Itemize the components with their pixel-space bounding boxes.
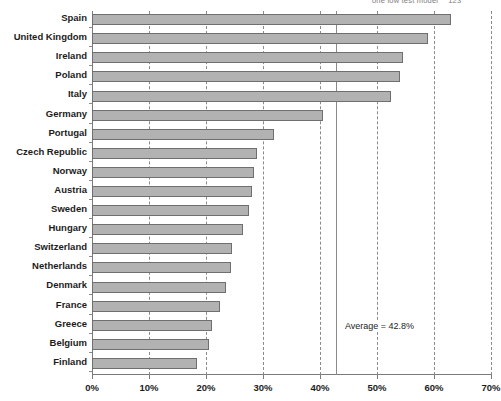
category-label-united-kingdom: United Kingdom <box>14 31 87 42</box>
bar-portugal <box>92 129 274 140</box>
x-tick-label-50: 50% <box>367 382 386 393</box>
bar-ireland <box>92 52 403 63</box>
x-tick-label-40: 40% <box>310 382 329 393</box>
bar-row: Belgium <box>92 336 491 355</box>
bar-row: France <box>92 298 491 317</box>
bar-united-kingdom <box>92 33 428 44</box>
bar-row: Poland <box>92 68 491 87</box>
bar-austria <box>92 186 252 197</box>
category-label-denmark: Denmark <box>46 279 87 290</box>
y-tick <box>89 218 92 219</box>
category-label-sweden: Sweden <box>51 203 87 214</box>
y-tick <box>89 103 92 104</box>
category-label-netherlands: Netherlands <box>32 260 87 271</box>
x-tick-label-0: 0% <box>85 382 99 393</box>
y-tick <box>89 180 92 181</box>
bar-spain <box>92 14 451 25</box>
bar-sweden <box>92 205 249 216</box>
bar-switzerland <box>92 243 232 254</box>
y-tick <box>89 333 92 334</box>
y-tick <box>89 314 92 315</box>
bar-row: Switzerland <box>92 240 491 259</box>
bar-row: Ireland <box>92 49 491 68</box>
average-annotation: Average = 42.8% <box>343 320 416 332</box>
category-label-belgium: Belgium <box>50 337 87 348</box>
x-tick-20 <box>206 375 207 379</box>
y-tick <box>89 237 92 238</box>
bar-belgium <box>92 339 209 350</box>
bar-norway <box>92 167 254 178</box>
x-tick-60 <box>434 375 435 379</box>
category-label-norway: Norway <box>53 165 87 176</box>
category-label-switzerland: Switzerland <box>34 241 87 252</box>
x-tick-0 <box>92 375 93 379</box>
x-tick-70 <box>491 375 492 379</box>
top-partial-header-number: 123 <box>448 0 461 5</box>
y-tick <box>89 256 92 257</box>
category-label-italy: Italy <box>68 88 87 99</box>
bar-denmark <box>92 282 226 293</box>
x-tick-40 <box>320 375 321 379</box>
bar-row: Denmark <box>92 278 491 297</box>
category-label-austria: Austria <box>54 184 87 195</box>
bar-france <box>92 301 220 312</box>
top-partial-header-label: one low test model <box>372 0 438 5</box>
y-tick <box>89 275 92 276</box>
top-partial-header-text: one low test model123 <box>372 0 495 5</box>
gridline-70 <box>491 11 492 375</box>
bar-row: United Kingdom <box>92 30 491 49</box>
bar-row: Greece <box>92 317 491 336</box>
y-tick <box>89 161 92 162</box>
bar-italy <box>92 91 391 102</box>
bar-row: Portugal <box>92 126 491 145</box>
bar-greece <box>92 320 212 331</box>
bar-row: Hungary <box>92 221 491 240</box>
bar-germany <box>92 110 323 121</box>
y-tick <box>89 123 92 124</box>
bar-row: Sweden <box>92 202 491 221</box>
category-label-ireland: Ireland <box>56 50 87 61</box>
bar-rows: SpainUnited KingdomIrelandPolandItalyGer… <box>92 11 491 375</box>
y-tick <box>89 84 92 85</box>
bar-czech-republic <box>92 148 257 159</box>
bar-poland <box>92 71 400 82</box>
x-tick-label-10: 10% <box>139 382 158 393</box>
category-label-portugal: Portugal <box>48 127 87 138</box>
category-label-finland: Finland <box>53 356 87 367</box>
bar-row: Germany <box>92 107 491 126</box>
bar-netherlands <box>92 262 231 273</box>
bar-row: Spain <box>92 11 491 30</box>
category-label-france: France <box>56 299 87 310</box>
x-tick-30 <box>263 375 264 379</box>
y-tick <box>89 27 92 28</box>
plot-area: SpainUnited KingdomIrelandPolandItalyGer… <box>92 11 491 375</box>
y-tick <box>89 371 92 372</box>
y-tick <box>89 65 92 66</box>
bar-hungary <box>92 224 243 235</box>
x-tick-label-60: 60% <box>424 382 443 393</box>
bar-row: Italy <box>92 87 491 106</box>
category-label-greece: Greece <box>55 318 87 329</box>
y-tick <box>89 352 92 353</box>
category-label-czech-republic: Czech Republic <box>16 146 87 157</box>
y-tick <box>89 294 92 295</box>
x-tick-label-70: 70% <box>481 382 500 393</box>
y-tick <box>89 199 92 200</box>
bar-finland <box>92 358 197 369</box>
x-tick-label-20: 20% <box>196 382 215 393</box>
bar-row: Finland <box>92 355 491 374</box>
y-tick <box>89 46 92 47</box>
bar-row: Netherlands <box>92 259 491 278</box>
category-label-spain: Spain <box>61 12 87 23</box>
category-label-poland: Poland <box>55 69 87 80</box>
x-tick-50 <box>377 375 378 379</box>
x-tick-label-30: 30% <box>253 382 272 393</box>
category-label-hungary: Hungary <box>48 222 87 233</box>
category-label-germany: Germany <box>46 108 87 119</box>
bar-row: Czech Republic <box>92 145 491 164</box>
x-tick-10 <box>149 375 150 379</box>
y-tick <box>89 142 92 143</box>
bar-row: Austria <box>92 183 491 202</box>
bar-row: Norway <box>92 164 491 183</box>
